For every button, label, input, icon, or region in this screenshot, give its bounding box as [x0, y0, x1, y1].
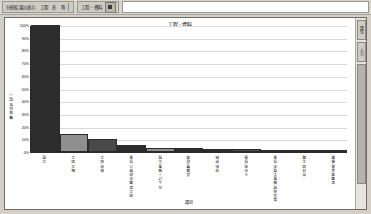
y-axis-tick-label: 40%	[15, 100, 29, 104]
x-axis-tick-label: 外注加工費	[302, 155, 306, 176]
bar[interactable]	[261, 150, 290, 152]
x-label-slot: 材料供給	[203, 155, 232, 203]
x-axis-tick-label: 部材加工	[100, 155, 104, 172]
toolbar-group-process[interactable]: 工程 - 資料	[77, 1, 119, 13]
application-window: 分析結果の表示 工程 名 称 工程 - 資料 工程 - 資料 構成比率(％) 1…	[0, 0, 371, 214]
x-axis-tick-label: 設備保全業務費	[331, 155, 335, 184]
bar-slot	[88, 26, 117, 152]
bar-slot	[318, 26, 347, 152]
toolbar-separator	[68, 3, 69, 11]
x-label-slot: 製品出荷検査工程の作業	[261, 155, 290, 203]
tab-properties[interactable]: 属性	[357, 20, 366, 40]
x-label-slot: 設備保全業務費	[318, 155, 347, 203]
x-axis-tick-label: 仕上げ・検査工程	[158, 155, 162, 189]
tab-data-label: 入力	[359, 48, 363, 56]
plot-area	[30, 26, 347, 153]
bar-slot	[261, 26, 290, 152]
bar-slot	[146, 26, 175, 152]
address-input[interactable]	[122, 1, 369, 13]
right-tab-strip: 属性 入力	[355, 18, 366, 209]
bar[interactable]	[318, 150, 347, 152]
x-label-slot: 部材加工	[88, 155, 117, 203]
y-axis-tick-label: 10%	[15, 138, 29, 142]
toolbar-group-analysis[interactable]: 分析結果の表示 工程 名 称	[2, 1, 74, 13]
x-axis-tick-label: その他作業	[244, 155, 248, 176]
bar[interactable]	[31, 25, 60, 152]
x-label-slot: 外注加工費	[289, 155, 318, 203]
x-label-slot: 加工設備の段取り作業	[116, 155, 145, 203]
x-axis-tick-label: 組立加工	[71, 155, 75, 172]
x-axis-tick-label: 製品出荷検査工程の作業	[273, 155, 277, 201]
y-axis-tick-label: 70%	[15, 62, 29, 66]
y-axis-title: 構成比率(％)	[7, 64, 15, 148]
bar[interactable]	[88, 139, 117, 152]
grid-icon[interactable]	[105, 2, 116, 13]
toolbar: 分析結果の表示 工程 名 称 工程 - 資料	[0, 0, 371, 15]
y-axis-tick-label: 80%	[15, 49, 29, 53]
y-axis-tick-label: 0%	[15, 151, 29, 155]
tab-properties-label: 属性	[359, 26, 363, 34]
bar-slot	[232, 26, 261, 152]
y-axis-tick-label: 20%	[15, 126, 29, 130]
y-axis-tick-label: 50%	[15, 88, 29, 92]
x-label-slot: 組立加工	[59, 155, 88, 203]
x-axis-tick-label: 材料供給	[215, 155, 219, 172]
tab-strip-filler	[357, 64, 366, 184]
y-axis-title-text: 構成比率(％)	[9, 94, 13, 119]
x-axis-tick-label: 加工設備の段取り作業	[129, 155, 133, 197]
y-axis-tick-label: 30%	[15, 113, 29, 117]
bar[interactable]	[117, 145, 146, 152]
bar[interactable]	[146, 148, 175, 152]
bar-slot	[290, 26, 319, 152]
x-label-slot: その他作業	[232, 155, 261, 203]
document-area: 工程 - 資料 構成比率(％) 100%90%80%70%60%50%40%30…	[4, 17, 367, 210]
bar[interactable]	[232, 149, 261, 152]
bar[interactable]	[175, 148, 204, 152]
x-axis-title: 項目	[30, 200, 347, 205]
y-axis-ticks: 100%90%80%70%60%50%40%30%20%10%0%	[15, 26, 29, 153]
x-label-slot: 品質管理部	[174, 155, 203, 203]
x-label-slot: 工程	[30, 155, 59, 203]
x-axis-tick-label: 工程	[42, 155, 46, 163]
bar-slot	[31, 26, 60, 152]
bar-slot	[203, 26, 232, 152]
chart-container: 工程 - 資料 構成比率(％) 100%90%80%70%60%50%40%30…	[5, 18, 355, 209]
x-axis-labels: 工程組立加工部材加工加工設備の段取り作業仕上げ・検査工程品質管理部材料供給その他…	[30, 155, 347, 203]
y-axis-tick-label: 90%	[15, 37, 29, 41]
x-axis-tick-label: 品質管理部	[186, 155, 190, 176]
bar[interactable]	[203, 149, 232, 152]
bar-slot	[175, 26, 204, 152]
bar-slot	[60, 26, 89, 152]
bar[interactable]	[290, 150, 319, 152]
x-label-slot: 仕上げ・検査工程	[145, 155, 174, 203]
tab-data[interactable]: 入力	[357, 42, 366, 62]
bar-series	[31, 26, 347, 152]
toolbar-process-label: 工程 - 資料	[80, 5, 103, 10]
toolbar-analysis-label: 分析結果の表示 工程 名 称	[5, 5, 66, 10]
y-axis-tick-label: 100%	[15, 24, 29, 28]
y-axis-tick-label: 60%	[15, 75, 29, 79]
bar[interactable]	[60, 134, 89, 152]
bar-slot	[117, 26, 146, 152]
